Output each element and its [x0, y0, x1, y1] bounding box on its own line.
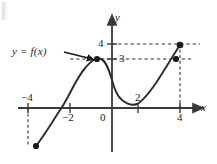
y-tick-label-3: 3 — [119, 53, 125, 64]
x-tick-label-neg4: −4 — [21, 92, 33, 103]
x-axis-label: x — [201, 102, 206, 113]
graph-canvas — [0, 0, 217, 164]
graph-figure: y x y = f(x) 0 4 3 −4 −2 2 4 — [0, 0, 217, 164]
point-left-endpoint — [33, 143, 39, 149]
origin-label: 0 — [100, 112, 106, 123]
point-right-endpoint — [177, 42, 184, 49]
point-curve-at-y3 — [173, 56, 179, 62]
function-label: y = f(x) — [12, 46, 47, 57]
x-tick-label-neg2: −2 — [62, 112, 74, 123]
x-tick-label-4: 4 — [177, 112, 183, 123]
function-curve-main — [36, 45, 180, 146]
function-label-pointer — [64, 52, 92, 59]
x-tick-label-2: 2 — [135, 92, 141, 103]
y-axis-label: y — [115, 12, 120, 23]
y-tick-label-4: 4 — [98, 38, 104, 49]
point-local-maximum — [94, 56, 100, 62]
